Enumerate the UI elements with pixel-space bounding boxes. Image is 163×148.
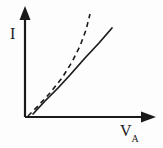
x-axis-arrow-icon — [141, 112, 156, 123]
y-axis-arrow-icon — [20, 6, 31, 20]
iv-characteristic-figure: I VA — [0, 0, 163, 148]
x-axis-label-main: V — [120, 122, 132, 139]
x-axis-label: VA — [120, 123, 139, 142]
measured-characteristic-curve — [33, 28, 112, 114]
x-axis-label-subscript: A — [132, 133, 139, 144]
ideal-characteristic-curve — [28, 14, 90, 116]
y-axis-label: I — [10, 26, 15, 42]
